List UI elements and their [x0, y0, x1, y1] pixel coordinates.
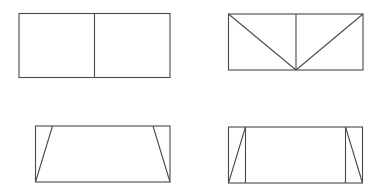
dividing-line	[153, 126, 170, 182]
outer-rectangle	[229, 127, 363, 183]
dividing-line	[296, 14, 363, 70]
diagram-canvas	[0, 0, 378, 195]
dividing-line	[229, 14, 297, 70]
figure-top-right	[229, 14, 364, 70]
dividing-line	[346, 127, 363, 183]
figure-bottom-left	[36, 126, 171, 182]
dividing-line	[36, 126, 53, 182]
dividing-line	[229, 127, 246, 183]
outer-rectangle	[36, 126, 171, 182]
figure-top-left	[19, 14, 170, 78]
figure-bottom-right	[229, 127, 363, 183]
